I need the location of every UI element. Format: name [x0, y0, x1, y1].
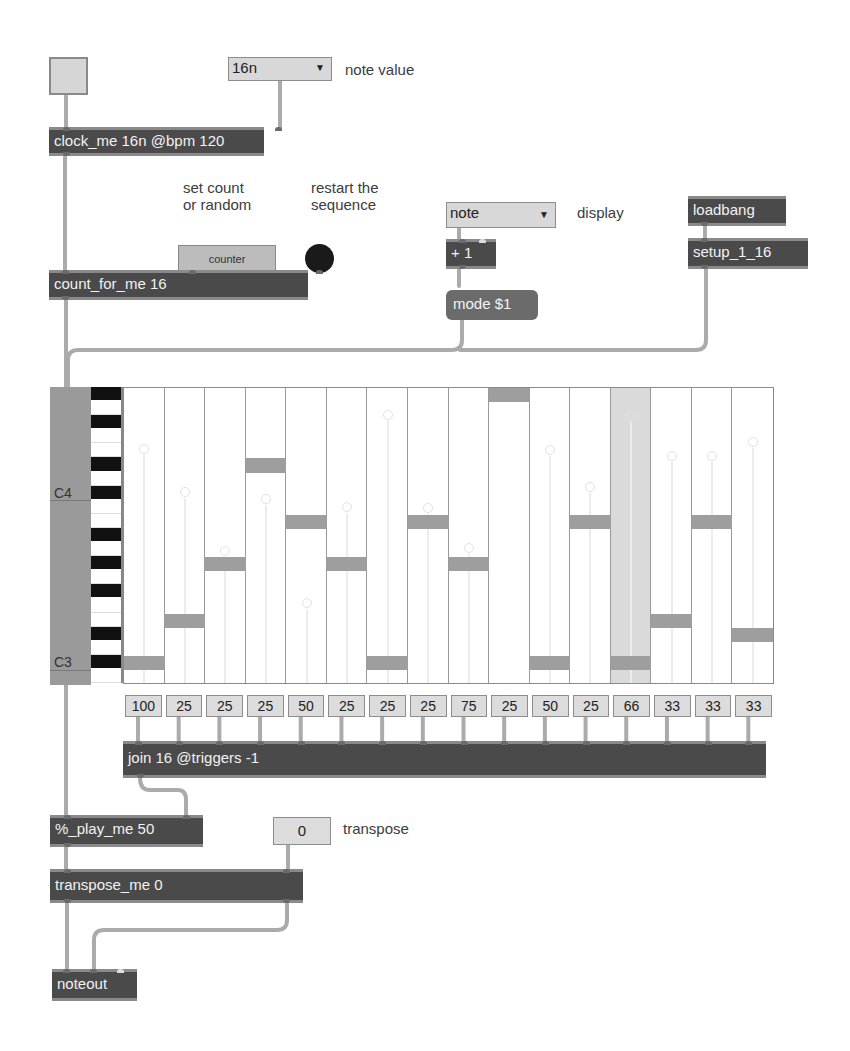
note-bar[interactable]: [246, 458, 287, 472]
black-key: [91, 387, 121, 400]
setup-object[interactable]: setup_1_16: [688, 238, 808, 269]
step-column[interactable]: [530, 388, 571, 683]
count-for-me-object[interactable]: count_for_me 16: [49, 270, 308, 300]
note-bar[interactable]: [205, 557, 246, 571]
step-column[interactable]: [124, 388, 165, 683]
velocity-slider[interactable]: [427, 514, 429, 683]
note-bar[interactable]: [732, 628, 773, 642]
velocity-handle-icon[interactable]: [261, 494, 271, 504]
step-column[interactable]: [449, 388, 490, 683]
probability-number[interactable]: 25: [369, 695, 406, 717]
transpose-me-object[interactable]: transpose_me 0: [50, 869, 303, 903]
play-me-object[interactable]: %_play_me 50: [50, 815, 203, 847]
join-object[interactable]: join 16 @triggers -1: [123, 741, 766, 778]
velocity-slider[interactable]: [549, 456, 551, 683]
velocity-slider[interactable]: [711, 462, 713, 683]
note-bar[interactable]: [611, 656, 652, 670]
plus-one-object[interactable]: + 1: [446, 239, 496, 269]
velocity-slider[interactable]: [468, 554, 470, 683]
transpose-number[interactable]: 0: [273, 817, 331, 845]
white-key: [91, 472, 121, 486]
step-column[interactable]: [367, 388, 408, 683]
black-key: [91, 627, 121, 640]
step-column[interactable]: [327, 388, 368, 683]
velocity-slider[interactable]: [224, 557, 226, 683]
velocity-handle-icon[interactable]: [545, 445, 555, 455]
probability-number[interactable]: 25: [328, 695, 365, 717]
step-column[interactable]: [408, 388, 449, 683]
toggle[interactable]: [49, 57, 88, 95]
step-column[interactable]: [489, 388, 530, 683]
note-bar[interactable]: [286, 515, 327, 529]
velocity-slider[interactable]: [387, 421, 389, 683]
probability-number[interactable]: 33: [695, 695, 732, 717]
step-column[interactable]: [286, 388, 327, 683]
velocity-slider[interactable]: [306, 609, 308, 683]
probability-number[interactable]: 25: [491, 695, 528, 717]
probability-number[interactable]: 25: [247, 695, 284, 717]
note-bar[interactable]: [651, 614, 692, 628]
probability-number[interactable]: 66: [613, 695, 650, 717]
probability-number[interactable]: 50: [532, 695, 569, 717]
note-bar[interactable]: [449, 557, 490, 571]
white-key: [91, 570, 121, 584]
velocity-handle-icon[interactable]: [585, 482, 595, 492]
step-grid[interactable]: [123, 387, 774, 684]
velocity-slider[interactable]: [143, 455, 145, 683]
step-column[interactable]: [205, 388, 246, 683]
probability-number[interactable]: 25: [206, 695, 243, 717]
note-bar[interactable]: [327, 557, 368, 571]
velocity-handle-icon[interactable]: [342, 502, 352, 512]
piano-keyboard[interactable]: [91, 387, 123, 683]
velocity-handle-icon[interactable]: [139, 444, 149, 454]
velocity-handle-icon[interactable]: [383, 410, 393, 420]
display-menu[interactable]: note ▼: [446, 202, 556, 228]
note-bar[interactable]: [408, 515, 449, 529]
step-column[interactable]: [651, 388, 692, 683]
note-bar[interactable]: [570, 515, 611, 529]
step-column[interactable]: [692, 388, 733, 683]
noteout-object[interactable]: noteout: [52, 969, 137, 1001]
velocity-slider[interactable]: [184, 498, 186, 683]
note-bar[interactable]: [124, 656, 165, 670]
velocity-handle-icon[interactable]: [667, 451, 677, 461]
note-bar[interactable]: [165, 614, 206, 628]
velocity-slider[interactable]: [346, 513, 348, 683]
step-column[interactable]: [611, 388, 652, 683]
step-column[interactable]: [732, 388, 773, 683]
velocity-handle-icon[interactable]: [180, 487, 190, 497]
probability-number[interactable]: 33: [735, 695, 772, 717]
loadbang-object[interactable]: loadbang: [688, 196, 786, 226]
probability-number[interactable]: 75: [451, 695, 488, 717]
restart-bang-icon[interactable]: [305, 244, 334, 273]
velocity-handle-icon[interactable]: [220, 546, 230, 556]
black-key: [91, 584, 121, 597]
note-bar[interactable]: [367, 656, 408, 670]
velocity-handle-icon[interactable]: [626, 411, 636, 421]
velocity-handle-icon[interactable]: [302, 598, 312, 608]
probability-number[interactable]: 25: [573, 695, 610, 717]
probability-number[interactable]: 25: [166, 695, 203, 717]
velocity-handle-icon[interactable]: [464, 543, 474, 553]
probability-number[interactable]: 50: [288, 695, 325, 717]
velocity-slider[interactable]: [671, 462, 673, 683]
velocity-handle-icon[interactable]: [423, 503, 433, 513]
display-comment: display: [577, 204, 624, 221]
note-value-menu[interactable]: 16n ▼: [228, 57, 332, 81]
velocity-slider[interactable]: [265, 505, 267, 683]
step-column[interactable]: [246, 388, 287, 683]
mode-message[interactable]: mode $1: [446, 290, 538, 320]
velocity-handle-icon[interactable]: [748, 437, 758, 447]
velocity-slider[interactable]: [630, 422, 632, 683]
velocity-handle-icon[interactable]: [707, 451, 717, 461]
step-column[interactable]: [570, 388, 611, 683]
velocity-slider[interactable]: [752, 448, 754, 683]
note-bar[interactable]: [692, 515, 733, 529]
note-bar[interactable]: [530, 656, 571, 670]
probability-number[interactable]: 33: [654, 695, 691, 717]
step-column[interactable]: [165, 388, 206, 683]
clock-me-object[interactable]: clock_me 16n @bpm 120: [49, 127, 264, 156]
probability-number[interactable]: 100: [125, 695, 162, 717]
probability-number[interactable]: 25: [410, 695, 447, 717]
note-bar[interactable]: [489, 388, 530, 402]
